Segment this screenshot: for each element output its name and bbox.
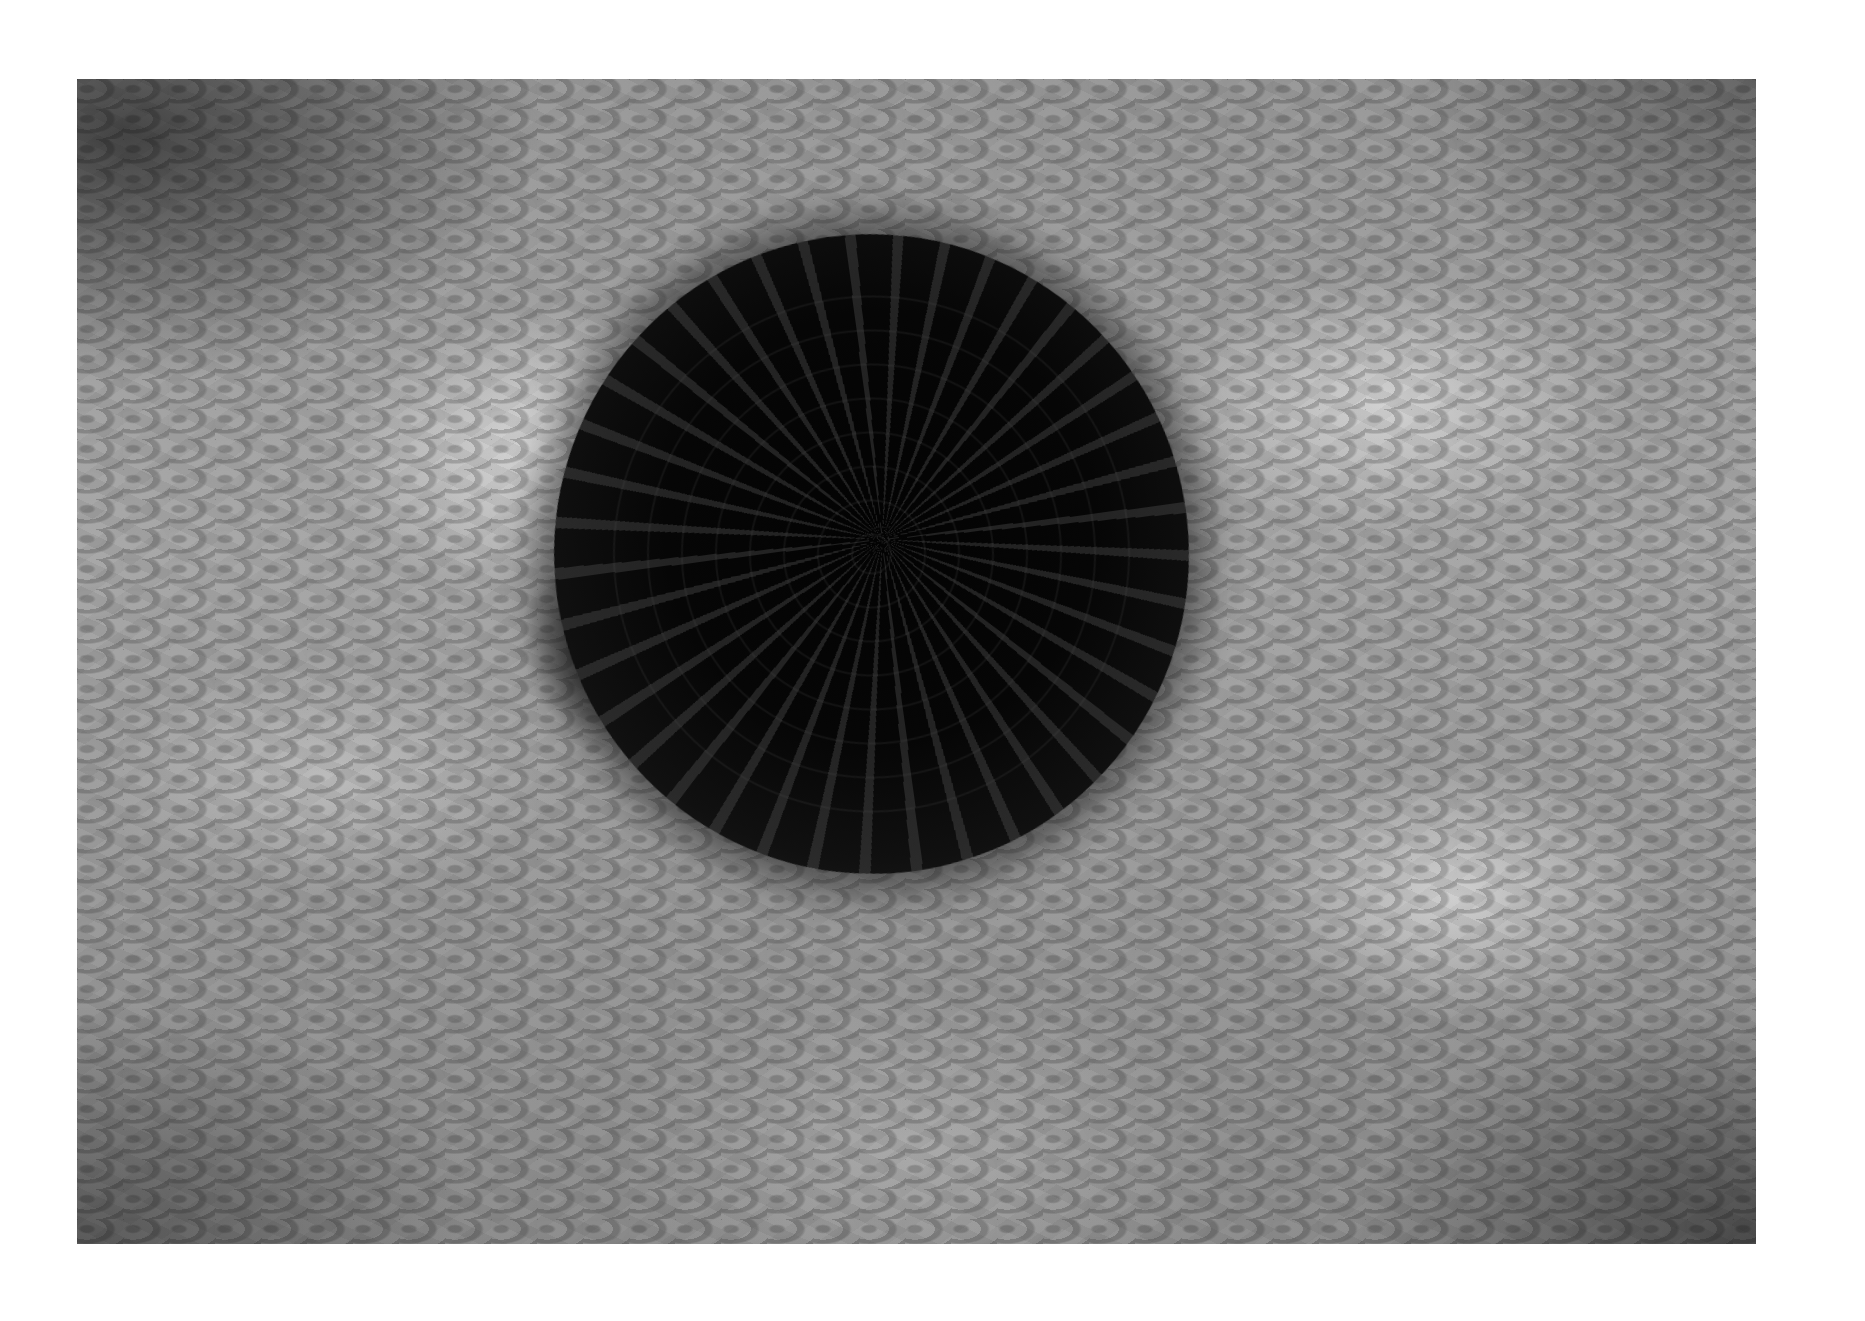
photograph (77, 79, 1756, 1244)
